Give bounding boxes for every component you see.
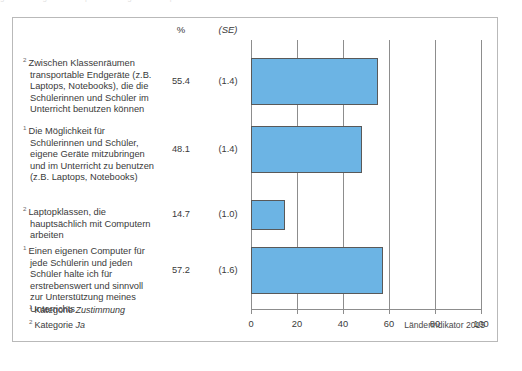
scan-crop-artifact: ggpgp bbox=[0, 0, 522, 8]
x-axis-baseline bbox=[251, 309, 481, 310]
item-label: 1Die Möglichkeit für Schülerinnen und Sc… bbox=[21, 122, 157, 184]
item-standard-error: (1.0) bbox=[205, 209, 251, 219]
footnote: 1Kategorie Zustimmung bbox=[29, 301, 125, 316]
x-axis-tick bbox=[389, 310, 390, 314]
footnote-marker: 2 bbox=[23, 205, 28, 212]
column-header-percent: % bbox=[161, 24, 201, 35]
footnote-term: Ja bbox=[75, 320, 85, 330]
x-axis-tick bbox=[251, 310, 252, 314]
footnote-marker: 2 bbox=[23, 56, 28, 63]
source-note: Länderindikator 2015 bbox=[404, 320, 485, 330]
footnote: 2Kategorie Ja bbox=[29, 316, 125, 331]
item-percent-value: 14.7 bbox=[161, 209, 201, 219]
footnote-marker: 1 bbox=[23, 244, 28, 251]
bar bbox=[251, 247, 383, 294]
x-axis-tick-label: 40 bbox=[328, 319, 358, 329]
x-axis-tick bbox=[481, 310, 482, 314]
bar bbox=[251, 200, 285, 230]
column-headers: % (SE) bbox=[13, 24, 497, 40]
item-percent-value: 57.2 bbox=[161, 265, 201, 275]
x-axis-tick bbox=[297, 310, 298, 314]
gridline bbox=[389, 40, 390, 310]
footnote-legend: 1Kategorie Zustimmung2Kategorie Ja bbox=[29, 301, 125, 331]
x-axis-tick bbox=[343, 310, 344, 314]
item-standard-error: (1.6) bbox=[205, 265, 251, 275]
item-percent-value: 48.1 bbox=[161, 144, 201, 154]
bar-chart-plot: 020406080100 bbox=[251, 40, 481, 310]
x-axis-tick-label: 0 bbox=[236, 319, 266, 329]
column-header-se: (SE) bbox=[205, 24, 251, 35]
footnote-term: Zustimmung bbox=[75, 305, 125, 315]
footnote-marker: 2 bbox=[29, 318, 34, 325]
x-axis-tick-label: 60 bbox=[374, 319, 404, 329]
gridline bbox=[435, 40, 436, 310]
x-axis-tick-label: 20 bbox=[282, 319, 312, 329]
item-label: 2Zwischen Klassenräumen transportable En… bbox=[21, 54, 157, 116]
footnote-marker: 1 bbox=[29, 303, 34, 310]
item-standard-error: (1.4) bbox=[205, 76, 251, 86]
footnote-marker: 1 bbox=[23, 124, 28, 131]
item-percent-value: 55.4 bbox=[161, 76, 201, 86]
x-axis-tick bbox=[435, 310, 436, 314]
gridline bbox=[481, 40, 482, 310]
item-standard-error: (1.4) bbox=[205, 144, 251, 154]
item-label: 2Laptopklassen, die hauptsächlich mit Co… bbox=[21, 203, 157, 242]
figure-frame: % (SE) 2Zwischen Klassenräumen transport… bbox=[12, 17, 498, 342]
bar bbox=[251, 126, 362, 173]
bar bbox=[251, 58, 378, 105]
